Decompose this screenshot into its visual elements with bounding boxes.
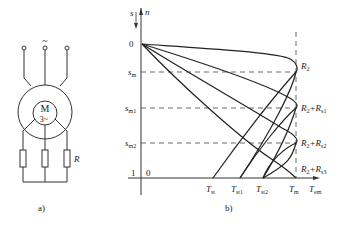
s-arrow-icon — [134, 23, 138, 29]
y-tick-0: 0 — [129, 39, 134, 49]
curve-label-r2-rs1: R2+Rs1 — [300, 103, 326, 114]
x-tick-tst1: Tst1 — [231, 184, 243, 195]
x-axis-label: Tem — [309, 184, 322, 195]
curve-r2-rs3 — [142, 44, 296, 178]
curve-r2-rs1 — [142, 44, 297, 178]
curve-label-r2-rs3: R2+Rs3 — [300, 164, 326, 175]
curve-r2-lower — [213, 72, 296, 178]
caption-b: b) — [225, 203, 233, 213]
n-arrow-icon — [139, 8, 143, 15]
curve-r2-rs2 — [142, 44, 297, 178]
y-tick-1: 1 — [131, 168, 136, 178]
resistor-right — [64, 150, 70, 167]
motor-circuit-diagram — [18, 46, 72, 182]
torque-slip-chart — [128, 8, 320, 195]
resistor-left — [20, 150, 26, 167]
supply-symbol: ~ — [42, 35, 48, 46]
y-tick-sm2: sm2 — [125, 138, 136, 149]
motor-label: M — [41, 103, 50, 114]
rotor-lead-right — [55, 119, 67, 131]
lead-right — [60, 50, 67, 86]
curve-label-r2: R2 — [300, 61, 310, 72]
origin-x-label: 0 — [146, 168, 151, 178]
x-tick-tst: Tst — [206, 184, 215, 195]
terminal-right — [65, 46, 69, 50]
resistor-label: R — [73, 154, 80, 164]
rotor-lead-left — [23, 119, 35, 131]
resistor-middle — [42, 150, 48, 167]
caption-a: a) — [38, 203, 45, 213]
lead-left — [24, 50, 31, 86]
curve-r2 — [142, 44, 297, 178]
figure-canvas: ~ M 3~ R a) s n — [0, 0, 344, 227]
curve-label-r2-rs2: R2+Rs2 — [300, 138, 326, 149]
terminal-left — [22, 46, 26, 50]
x-tick-tst2: Tst2 — [256, 184, 268, 195]
motor-phase-label: 3~ — [40, 115, 49, 124]
x-arrow-icon — [313, 176, 320, 180]
y-axis-label-n: n — [145, 7, 150, 17]
y-axis-label-s: s — [130, 8, 134, 18]
y-tick-sm: sm — [128, 67, 137, 78]
x-tick-tm: Tm — [289, 184, 299, 195]
y-tick-sm1: sm1 — [125, 103, 136, 114]
terminal-middle — [43, 46, 47, 50]
